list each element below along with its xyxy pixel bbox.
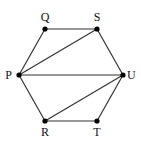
- vertex-s-dot: [94, 26, 99, 31]
- vertex-u-label: U: [127, 68, 136, 82]
- vertex-s-label: S: [94, 10, 101, 24]
- vertex-p-label: P: [5, 68, 12, 82]
- hexagon-graph-diagram: QSPURT: [0, 0, 141, 142]
- vertex-t-label: T: [93, 125, 101, 139]
- vertex-u-dot: [120, 72, 125, 77]
- edge-p-s: [19, 29, 97, 75]
- vertex-p-dot: [16, 72, 21, 77]
- edge-p-q: [19, 29, 45, 75]
- edge-r-u: [45, 75, 123, 121]
- vertex-r-label: R: [41, 125, 49, 139]
- vertex-t-dot: [94, 118, 99, 123]
- edge-r-p: [19, 75, 45, 121]
- vertex-q-dot: [42, 26, 47, 31]
- edge-u-t: [97, 75, 123, 121]
- edge-s-u: [97, 29, 123, 75]
- edges-group: [19, 29, 123, 121]
- vertex-r-dot: [42, 118, 47, 123]
- vertex-q-label: Q: [41, 10, 50, 24]
